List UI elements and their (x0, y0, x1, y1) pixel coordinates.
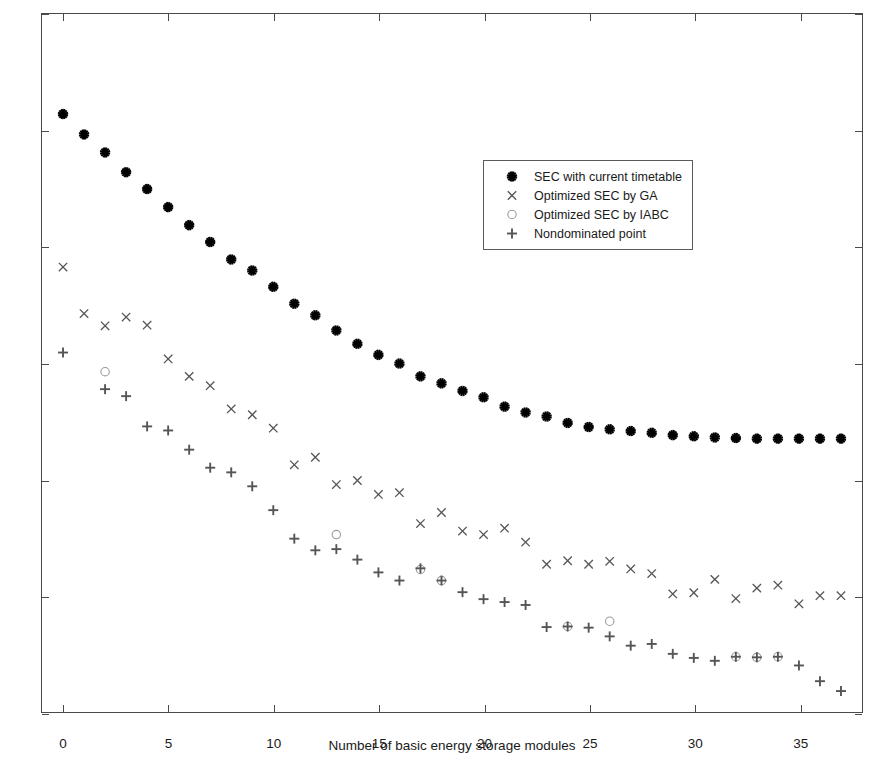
data-point-plus (521, 600, 531, 610)
x-axis-tick (168, 705, 169, 712)
y-axis-tick (855, 247, 862, 248)
data-point-star (79, 129, 89, 139)
data-point-plus (794, 660, 804, 670)
y-axis-tick (42, 247, 49, 248)
data-point-x (416, 519, 424, 527)
data-point-plus (710, 656, 720, 666)
data-point-plus (836, 686, 846, 696)
data-point-star (142, 184, 152, 194)
data-point-star (647, 428, 657, 438)
data-point-x (606, 557, 614, 565)
data-point-circle (606, 617, 614, 625)
x-axis-tick (379, 705, 380, 712)
data-point-x (816, 591, 824, 599)
data-point-x (269, 424, 277, 432)
data-point-star (163, 202, 173, 212)
legend-symbol-svg (490, 167, 534, 186)
data-point-plus (268, 505, 278, 515)
data-point-x (143, 321, 151, 329)
x-axis-tick (274, 14, 275, 21)
data-point-x (508, 191, 516, 199)
data-point-plus (773, 652, 783, 662)
data-point-x (563, 557, 571, 565)
data-point-star (184, 220, 194, 230)
legend-item: SEC with current timetable (490, 167, 682, 186)
legend-label: Optimized SEC by IABC (534, 208, 669, 222)
data-point-plus (184, 445, 194, 455)
data-point-x (753, 584, 761, 592)
data-point-plus (584, 623, 594, 633)
data-point-plus (752, 652, 762, 662)
legend-symbol-svg (490, 186, 534, 205)
x-axis-tick (63, 705, 64, 712)
data-point-x (690, 589, 698, 597)
data-point-x (584, 560, 592, 568)
data-point-x (290, 461, 298, 469)
data-point-star (563, 418, 573, 428)
data-point-star (752, 434, 762, 444)
data-point-x (711, 575, 719, 583)
data-point-star (542, 412, 552, 422)
data-point-x (353, 476, 361, 484)
data-point-star (584, 422, 594, 432)
data-point-plus (373, 567, 383, 577)
x-axis-label: Number of basic energy storage modules (41, 738, 863, 753)
data-point-x (122, 313, 130, 321)
x-axis-tick (485, 14, 486, 21)
data-point-plus (479, 594, 489, 604)
data-point-plus (247, 481, 257, 491)
data-point-star (268, 282, 278, 292)
data-point-x (395, 489, 403, 497)
data-point-star (668, 430, 678, 440)
data-point-plus (226, 467, 236, 477)
y-axis-tick (855, 14, 862, 15)
x-axis-tick (695, 14, 696, 21)
y-axis-tick (42, 597, 49, 598)
data-point-x (248, 411, 256, 419)
data-point-x (521, 538, 529, 546)
data-point-circle (508, 210, 516, 218)
data-point-x (837, 591, 845, 599)
data-point-plus (289, 534, 299, 544)
data-points-layer (42, 14, 862, 712)
data-point-plus (647, 639, 657, 649)
data-point-star (436, 378, 446, 388)
x-axis-tick (168, 14, 169, 21)
y-axis-tick (42, 481, 49, 482)
data-point-star (394, 359, 404, 369)
data-point-star (626, 426, 636, 436)
series-x (59, 263, 845, 608)
data-point-plus (542, 622, 552, 632)
data-point-x (500, 524, 508, 532)
x-axis-tick (379, 14, 380, 21)
data-point-x (227, 405, 235, 413)
chart-figure: Substation energy consumption (MWh) 4648… (0, 0, 869, 760)
data-point-x (669, 590, 677, 598)
x-axis-tick (590, 14, 591, 21)
legend-symbol-svg (490, 224, 534, 243)
data-point-star (415, 371, 425, 381)
legend-marker-x-icon (490, 186, 534, 205)
data-point-star (121, 167, 131, 177)
y-axis-tick (855, 714, 862, 715)
x-axis-tick (63, 14, 64, 21)
data-point-x (332, 480, 340, 488)
legend-label: SEC with current timetable (534, 170, 682, 184)
y-axis-tick (42, 131, 49, 132)
legend-item: Nondominated point (490, 224, 682, 243)
data-point-star (58, 109, 68, 119)
series-plus (58, 348, 846, 697)
plot-area: 4648505254565805101520253035 (41, 13, 863, 713)
data-point-x (80, 309, 88, 317)
data-point-x (458, 527, 466, 535)
data-point-x (185, 372, 193, 380)
data-point-plus (626, 641, 636, 651)
data-point-x (795, 600, 803, 608)
x-axis-tick (801, 14, 802, 21)
legend-marker-circle-icon (490, 205, 534, 224)
y-axis-tick (855, 597, 862, 598)
data-point-x (542, 560, 550, 568)
data-point-star (507, 171, 517, 181)
data-point-x (479, 530, 487, 538)
data-point-star (352, 339, 362, 349)
